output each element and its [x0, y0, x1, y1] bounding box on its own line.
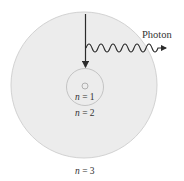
label-n2: n = 2 — [75, 108, 95, 118]
label-n1: n = 1 — [75, 92, 95, 102]
bohr-diagram: Photon n = 1 n = 2 n = 3 — [0, 0, 184, 181]
label-n3: n = 3 — [75, 166, 95, 176]
photon-label: Photon — [142, 29, 173, 40]
